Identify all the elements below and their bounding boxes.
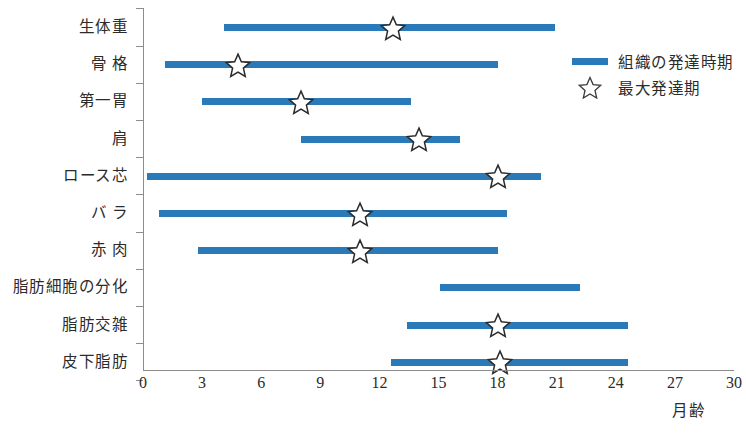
category-label: 生体重 xyxy=(0,19,132,35)
legend-item-max-development: 最大発達期 xyxy=(572,74,734,100)
x-axis-title: 月齢 xyxy=(672,398,706,420)
y-axis-line xyxy=(143,8,144,370)
category-label: バ ラ xyxy=(0,205,132,221)
bar-swatch-icon xyxy=(572,58,608,65)
y-axis-tick xyxy=(136,194,143,195)
range-bar xyxy=(301,136,461,143)
category-label: 皮下脂肪 xyxy=(0,354,132,370)
star-outline-glyph xyxy=(578,76,602,99)
category-label: 赤 肉 xyxy=(0,242,132,258)
max-development-star-marker xyxy=(347,201,373,227)
legend-label-max-development: 最大発達期 xyxy=(618,76,701,98)
range-bar xyxy=(165,61,498,68)
max-development-star-marker xyxy=(347,238,373,264)
category-label: 肩 xyxy=(0,131,132,147)
range-bar xyxy=(440,284,580,291)
x-axis-tick-label: 24 xyxy=(596,374,636,392)
x-axis-tick-label: 18 xyxy=(478,374,518,392)
x-axis-tick-label: 12 xyxy=(359,374,399,392)
x-axis-tick-label: 0 xyxy=(123,374,163,392)
x-axis-tick-label: 27 xyxy=(655,374,695,392)
star-outline-glyph xyxy=(380,15,406,41)
star-outline-glyph xyxy=(485,312,511,338)
y-axis-tick xyxy=(136,46,143,47)
range-bar xyxy=(159,210,508,217)
star-outline-glyph xyxy=(487,349,513,375)
x-axis-tick-label: 6 xyxy=(241,374,281,392)
y-axis-tick xyxy=(136,343,143,344)
category-label: ロース芯 xyxy=(0,168,132,184)
y-axis-tick xyxy=(136,83,143,84)
star-outline-glyph xyxy=(406,126,432,152)
y-axis-tick xyxy=(136,120,143,121)
range-bar xyxy=(407,322,628,329)
range-bar xyxy=(147,173,541,180)
category-label: 骨 格 xyxy=(0,56,132,72)
y-axis-tick xyxy=(136,306,143,307)
max-development-star-marker xyxy=(487,349,513,375)
legend-item-development-period: 組織の発達時期 xyxy=(572,48,734,74)
max-development-star-marker xyxy=(485,163,511,189)
category-label: 脂肪交雑 xyxy=(0,317,132,333)
max-development-star-marker xyxy=(288,89,314,115)
category-label: 第一胃 xyxy=(0,93,132,109)
chart-legend: 組織の発達時期 最大発達期 xyxy=(572,48,734,100)
category-label: 脂肪細胞の分化 xyxy=(0,279,132,295)
legend-label-development-period: 組織の発達時期 xyxy=(618,50,734,72)
y-axis-tick xyxy=(136,157,143,158)
x-axis-tick-label: 3 xyxy=(182,374,222,392)
x-axis-line xyxy=(143,370,734,371)
max-development-star-marker xyxy=(225,52,251,78)
x-axis-tick-label: 30 xyxy=(714,374,746,392)
y-axis-tick xyxy=(136,8,143,9)
star-outline-glyph xyxy=(347,201,373,227)
star-outline-glyph xyxy=(347,238,373,264)
y-axis-tick xyxy=(136,269,143,270)
star-outline-glyph xyxy=(288,89,314,115)
x-axis-tick-label: 15 xyxy=(419,374,459,392)
star-outline-glyph xyxy=(225,52,251,78)
x-axis-tick-label: 9 xyxy=(300,374,340,392)
y-axis-tick xyxy=(136,232,143,233)
max-development-star-marker xyxy=(380,15,406,41)
max-development-star-marker xyxy=(485,312,511,338)
x-axis-tick-label: 21 xyxy=(537,374,577,392)
star-outline-icon xyxy=(572,76,608,98)
star-outline-glyph xyxy=(485,163,511,189)
max-development-star-marker xyxy=(406,126,432,152)
development-period-chart: 生体重骨 格第一胃肩ロース芯バ ラ赤 肉脂肪細胞の分化脂肪交雑皮下脂肪 0369… xyxy=(0,0,746,434)
